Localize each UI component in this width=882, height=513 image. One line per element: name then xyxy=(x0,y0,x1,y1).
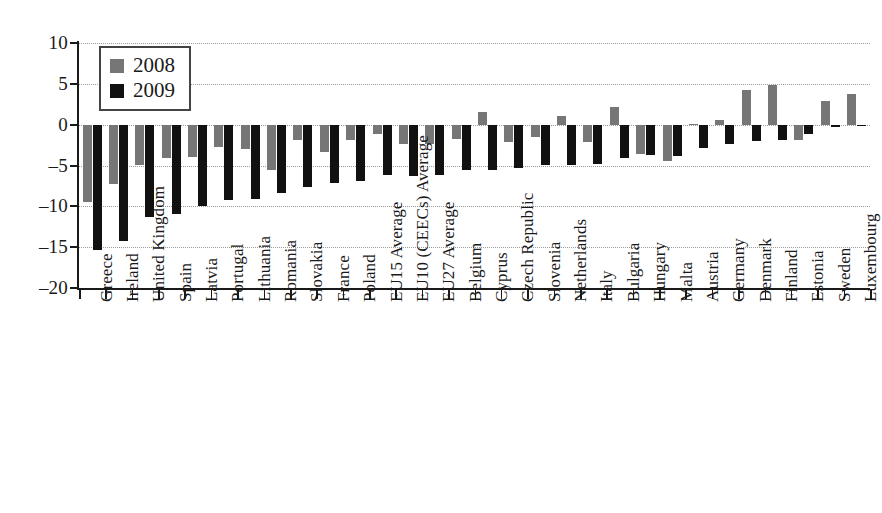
bar-2008 xyxy=(214,125,223,147)
x-label-denmark: Denmark xyxy=(757,238,774,302)
y-tick-label-wrap-0: 0 xyxy=(0,115,68,134)
bar-2009 xyxy=(198,125,207,207)
bar-2009 xyxy=(699,125,708,148)
y-tick-label--10: –10 xyxy=(22,196,68,215)
y-tick-label-wrap--15: –15 xyxy=(0,237,68,256)
x-label-lithuania: Lithuania xyxy=(256,236,273,302)
x-label-belgium: Belgium xyxy=(467,243,484,302)
bar-2009 xyxy=(541,125,550,166)
bar-2009 xyxy=(673,125,682,156)
x-axis-category-labels: GreeceIrelandUnited KingdomSpainLatviaPo… xyxy=(79,300,879,450)
x-label-estonia: Estonia xyxy=(809,250,826,302)
bar-2009 xyxy=(514,125,523,168)
x-label-sweden: Sweden xyxy=(836,248,853,302)
x-label-latvia: Latvia xyxy=(203,258,220,302)
bar-2009 xyxy=(831,125,840,127)
bar-2008 xyxy=(504,125,513,142)
legend-label-2008: 2008 xyxy=(133,55,175,76)
x-tick xyxy=(79,290,81,299)
y-tick-label--20: –20 xyxy=(22,278,68,297)
bar-2009 xyxy=(435,125,444,176)
chart-legend: 2008 2009 xyxy=(99,46,191,111)
bar-2008 xyxy=(610,107,619,125)
bar-2008 xyxy=(320,125,329,152)
bar-2008 xyxy=(346,125,355,141)
y-tick--15 xyxy=(70,246,79,248)
bar-chart: 1050–5–10–15–20 GreeceIrelandUnited King… xyxy=(0,0,882,513)
x-label-slovakia: Slovakia xyxy=(308,242,325,302)
bar-2008 xyxy=(135,125,144,166)
bar-2008 xyxy=(83,125,92,203)
bar-2008 xyxy=(162,125,171,158)
y-tick-label-0: 0 xyxy=(22,115,68,134)
bar-2008 xyxy=(531,125,540,137)
x-label-spain: Spain xyxy=(177,263,194,302)
bar-2008 xyxy=(373,125,382,135)
legend-item-2009: 2009 xyxy=(110,78,175,103)
y-tick-label-wrap-5: 5 xyxy=(0,74,68,93)
x-label-poland: Poland xyxy=(361,254,378,302)
bar-2008 xyxy=(399,125,408,145)
y-tick--20 xyxy=(70,287,79,289)
bar-2009 xyxy=(620,125,629,158)
bar-2008 xyxy=(689,124,698,125)
bar-2008 xyxy=(794,125,803,141)
bar-2009 xyxy=(93,125,102,250)
y-tick--5 xyxy=(70,165,79,167)
bar-2008 xyxy=(478,112,487,124)
x-label-eu15-average: EU15 Average xyxy=(388,202,405,303)
x-label-italy: Italy xyxy=(598,270,615,302)
y-tick--10 xyxy=(70,205,79,207)
bar-2009 xyxy=(857,125,866,126)
y-tick-label-5: 5 xyxy=(22,74,68,93)
x-label-france: France xyxy=(335,255,352,302)
x-label-portugal: Portugal xyxy=(229,244,246,302)
x-label-czech-republic: Czech Republic xyxy=(519,192,536,302)
bar-2008 xyxy=(557,116,566,125)
y-tick-10 xyxy=(70,42,79,44)
x-label-eu10-ceecs-average: EU10 (CEECs) Average xyxy=(414,135,431,302)
bar-2008 xyxy=(188,125,197,158)
bar-group xyxy=(346,43,366,288)
bar-2009 xyxy=(277,125,286,194)
x-label-luxembourg: Luxembourg xyxy=(862,213,879,302)
bar-2008 xyxy=(742,90,751,124)
bar-2009 xyxy=(488,125,497,170)
legend-swatch-2008-icon xyxy=(110,59,124,73)
bar-2009 xyxy=(251,125,260,199)
bar-2008 xyxy=(241,125,250,150)
x-label-netherlands: Netherlands xyxy=(572,219,589,302)
bar-2009 xyxy=(356,125,365,181)
bar-2009 xyxy=(752,125,761,141)
bar-2008 xyxy=(583,125,592,142)
x-label-greece: Greece xyxy=(98,253,115,302)
y-tick-label--5: –5 xyxy=(22,156,68,175)
x-label-austria: Austria xyxy=(704,251,721,302)
bar-2009 xyxy=(804,125,813,134)
bar-2008 xyxy=(821,101,830,125)
bar-2009 xyxy=(224,125,233,200)
y-tick-0 xyxy=(70,124,79,126)
x-label-eu27-average: EU27 Average xyxy=(440,202,457,303)
legend-swatch-2009-icon xyxy=(110,84,124,98)
y-tick-5 xyxy=(70,83,79,85)
legend-item-2008: 2008 xyxy=(110,53,175,78)
bar-2009 xyxy=(303,125,312,187)
bar-2008 xyxy=(267,125,276,170)
bar-2009 xyxy=(778,125,787,141)
y-tick-label-wrap--20: –20 xyxy=(0,278,68,297)
x-label-ireland: Ireland xyxy=(124,253,141,302)
bar-2008 xyxy=(663,125,672,161)
bar-2009 xyxy=(646,125,655,155)
x-label-hungary: Hungary xyxy=(651,242,668,302)
bar-2009 xyxy=(725,125,734,145)
y-tick-label--15: –15 xyxy=(22,237,68,256)
bar-2009 xyxy=(172,125,181,215)
legend-label-2009: 2009 xyxy=(133,80,175,101)
x-label-finland: Finland xyxy=(783,249,800,302)
bar-2008 xyxy=(636,125,645,154)
bar-2008 xyxy=(293,125,302,141)
bar-2009 xyxy=(567,125,576,165)
bar-2008 xyxy=(715,120,724,125)
y-tick-label-wrap-10: 10 xyxy=(0,33,68,52)
